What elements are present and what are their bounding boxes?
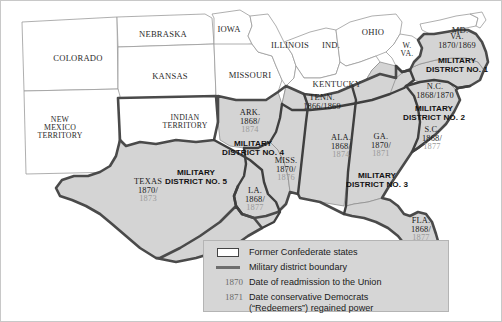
legend-key-year: 1871 xyxy=(211,292,245,303)
military-district-1-label: MILITARYDISTRICT NO. 1 xyxy=(426,57,488,74)
label-missouri: MISSOURI xyxy=(229,71,272,80)
state-label-texas: TEXAS1870/1873 xyxy=(134,178,162,204)
label-line: OHIO xyxy=(362,28,384,37)
label-line: KANSAS xyxy=(152,72,188,81)
legend-row-military-district-boundary: Military district boundary xyxy=(211,262,441,273)
readmission-date: 1866/1869 xyxy=(303,103,341,112)
state-label-georgia: GA.1870/1871 xyxy=(371,133,391,159)
label-nebraska: NEBRASKA xyxy=(139,30,187,39)
legend-text-former-confederate-states: Former Confederate states xyxy=(245,247,358,258)
redeemer-date: 1877 xyxy=(422,143,442,152)
legend-key-swatch xyxy=(211,247,245,258)
legend-text-readmission-date: Date of readmission to the Union xyxy=(245,277,381,288)
label-new-mexico-territory: NEWMEXICOTERRITORY xyxy=(38,116,83,140)
label-line: TERRITORY xyxy=(163,122,208,130)
label-colorado: COLORADO xyxy=(53,54,102,63)
label-line: IOWA xyxy=(217,25,240,34)
legend-text-line: Date of readmission to the Union xyxy=(249,277,381,288)
legend-row-readmission-date: 1870Date of readmission to the Union xyxy=(211,277,441,288)
label-line: IND. xyxy=(322,41,340,50)
label-indiana: IND. xyxy=(322,41,340,50)
label-line: COLORADO xyxy=(53,54,102,63)
label-line: TERRITORY xyxy=(38,132,83,140)
label-line: NEBRASKA xyxy=(139,30,187,39)
state-label-north-carolina: N.C.1868/1870 xyxy=(416,83,454,100)
legend-text-military-district-boundary: Military district boundary xyxy=(245,262,347,273)
redeemer-date: 1877 xyxy=(245,204,265,213)
redeemer-date: 1873 xyxy=(134,195,162,204)
state-label-tennessee: TENN.1866/1869 xyxy=(303,94,341,111)
state-label-louisiana: LA.1868/1877 xyxy=(245,187,265,213)
label-line: VA. xyxy=(401,50,414,58)
label-line: ILLINOIS xyxy=(271,41,309,50)
state-label-florida: FLA.1868/1877 xyxy=(411,217,431,243)
military-district-5-label: MILITARYDISTRICT NO. 5 xyxy=(165,169,227,186)
military-district-4-label: MILITARYDISTRICT NO. 4 xyxy=(222,140,284,157)
legend-text-line: (“Redeemers”) regained power xyxy=(249,303,373,314)
legend-text-line: Date conservative Democrats xyxy=(249,292,373,303)
state-label-virginia: VA.1870/1869 xyxy=(438,33,476,50)
state-label-arkansas: ARK.1868/1874 xyxy=(240,109,261,135)
label-line: DISTRICT NO. 4 xyxy=(222,149,284,158)
legend-key-year: 1870 xyxy=(211,277,245,288)
legend-key-line xyxy=(211,262,245,273)
legend-text-redeemer-date: Date conservative Democrats(“Redeemers”)… xyxy=(245,292,373,315)
label-iowa: IOWA xyxy=(217,25,240,34)
label-indian-territory: INDIANTERRITORY xyxy=(163,114,208,130)
legend-line-district-boundary xyxy=(216,266,240,269)
state-label-alabama: ALA.1868/1874 xyxy=(331,134,351,160)
redeemer-date: 1876 xyxy=(275,174,298,183)
legend-row-former-confederate-states: Former Confederate states xyxy=(211,247,441,258)
label-kentucky: KENTUCKY xyxy=(313,80,362,89)
map-legend: Former Confederate statesMilitary distri… xyxy=(203,240,449,312)
legend-text-line: Military district boundary xyxy=(249,262,347,273)
label-west-virginia: W.VA. xyxy=(401,42,414,58)
label-line: KENTUCKY xyxy=(313,80,362,89)
legend-text-line: Former Confederate states xyxy=(249,247,358,258)
reconstruction-districts-map: .union-state { fill:#ffffff; stroke:#9b9… xyxy=(0,0,502,322)
redeemer-date: 1874 xyxy=(331,151,351,160)
military-district-3-label: MILITARYDISTRICT NO. 3 xyxy=(346,172,408,189)
label-line: MISSOURI xyxy=(229,71,272,80)
legend-year-readmission-date: 1870 xyxy=(211,277,245,288)
redeemer-date: 1871 xyxy=(371,150,391,159)
state-label-south-carolina: S.C.1868/1877 xyxy=(422,126,442,152)
label-line: DISTRICT NO. 3 xyxy=(346,181,408,190)
label-ohio: OHIO xyxy=(362,28,384,37)
label-line: DISTRICT NO. 5 xyxy=(165,178,227,187)
label-line: DISTRICT NO. 2 xyxy=(403,114,465,123)
legend-row-redeemer-date: 1871Date conservative Democrats(“Redeeme… xyxy=(211,292,441,315)
label-kansas: KANSAS xyxy=(152,72,188,81)
label-line: DISTRICT NO. 1 xyxy=(426,66,488,75)
state-label-mississippi: MISS.1870/1876 xyxy=(275,157,298,183)
label-illinois: ILLINOIS xyxy=(271,41,309,50)
readmission-date: 1870/1869 xyxy=(438,42,476,51)
legend-swatch-confederate xyxy=(217,248,239,257)
legend-year-redeemer-date: 1871 xyxy=(211,292,245,303)
readmission-date: 1868/1870 xyxy=(416,92,454,101)
redeemer-date: 1874 xyxy=(240,126,261,135)
military-district-2-label: MILITARYDISTRICT NO. 2 xyxy=(403,105,465,122)
